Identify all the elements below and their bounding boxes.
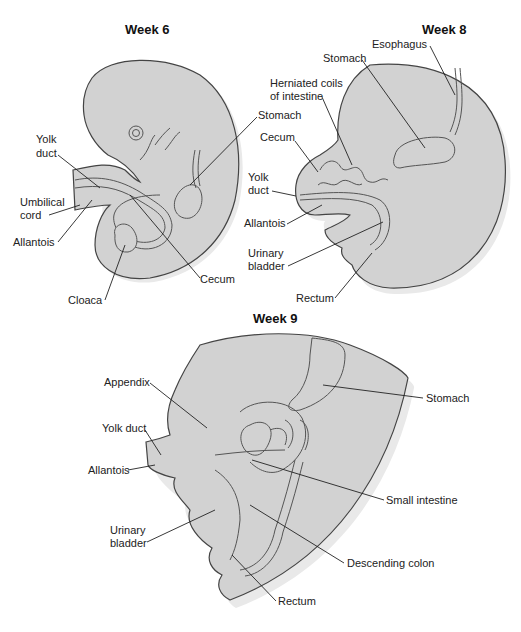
label-cecum-week-8: Cecum — [260, 131, 295, 143]
label-cecum: Cecum — [200, 273, 235, 285]
label-esophagus: Esophagus — [372, 38, 428, 50]
label-appendix: Appendix — [104, 376, 150, 388]
label-yolk-duct-week-9: Yolk duct — [102, 422, 146, 434]
label-allantois-week-8: Allantois — [244, 217, 286, 229]
embryo-body-week-8 — [296, 64, 506, 288]
label-rectum-week-8: Rectum — [296, 292, 334, 304]
panel-week-8: Week 8 Esophagus Stomach Herniated coils… — [244, 22, 510, 304]
panel-title-week-6: Week 6 — [125, 22, 170, 37]
label-yolk-duct: Yolk — [36, 133, 57, 145]
label-stomach-week-6: Stomach — [258, 109, 301, 121]
svg-text:bladder: bladder — [248, 260, 285, 272]
label-stomach-week-9: Stomach — [426, 392, 469, 404]
svg-text:cord: cord — [20, 209, 41, 221]
svg-text:bladder: bladder — [110, 537, 147, 549]
label-yolk-duct-week-8: Yolk — [248, 171, 269, 183]
label-allantois-week-9: Allantois — [88, 464, 130, 476]
label-urinary-bladder-week-8: Urinary — [248, 247, 284, 259]
label-small-intestine: Small intestine — [386, 494, 458, 506]
panel-title-week-9: Week 9 — [253, 311, 298, 326]
label-descending-colon: Descending colon — [347, 557, 434, 569]
embryo-gut-development-diagram: Week 6 Yolk duct Umbilical cord Allantoi… — [0, 0, 521, 632]
label-cloaca: Cloaca — [68, 294, 103, 306]
svg-text:duct: duct — [248, 184, 269, 196]
label-herniated-coils: Herniated coils — [270, 77, 343, 89]
label-rectum-week-9: Rectum — [278, 595, 316, 607]
label-umbilical-cord: Umbilical — [20, 196, 65, 208]
svg-text:duct: duct — [36, 147, 57, 159]
label-allantois: Allantois — [13, 236, 55, 248]
panel-title-week-8: Week 8 — [422, 22, 467, 37]
label-stomach-week-8: Stomach — [323, 52, 366, 64]
panel-week-9: Week 9 Appendix Yolk duct Allantois Urin… — [88, 311, 469, 608]
svg-text:of intestine: of intestine — [270, 90, 323, 102]
label-urinary-bladder-week-9: Urinary — [110, 524, 146, 536]
